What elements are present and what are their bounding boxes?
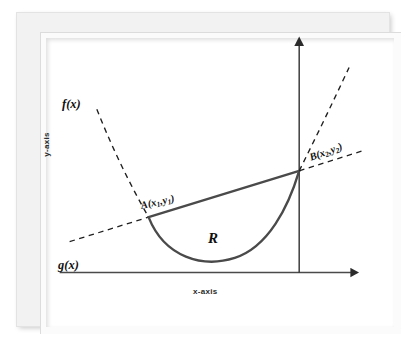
y-axis-label: y-axis (42, 132, 51, 156)
curve-f-solid (149, 171, 300, 262)
figure-canvas: f(x) g(x) R A(x1,y1) B(x2,y2) x-axis y-a… (0, 0, 410, 341)
curve-label-g: g(x) (58, 258, 79, 273)
point-a-letter: A (140, 199, 149, 211)
x-axis-label: x-axis (193, 287, 217, 296)
curve-g-dashed-left (70, 217, 149, 241)
point-a-x-subscript: 1 (156, 200, 162, 210)
plot-graphics (17, 13, 389, 326)
region-label-r: R (208, 230, 218, 247)
point-a-y-subscript: 1 (167, 197, 173, 207)
curve-label-f: f(x) (62, 97, 81, 112)
